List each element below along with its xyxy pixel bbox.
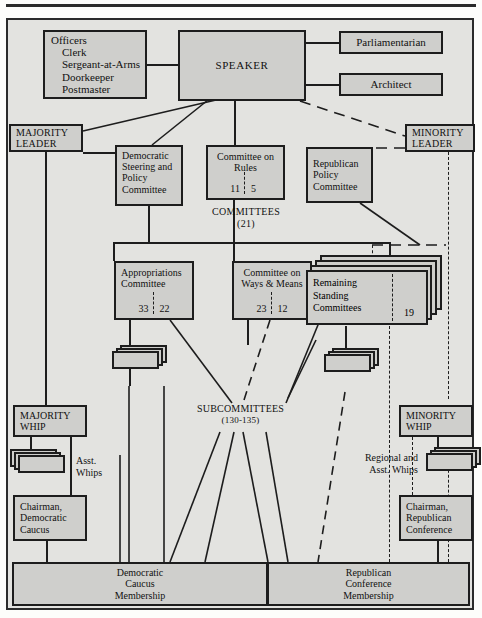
subcommittees-label-line2: (130-135) [178,415,303,425]
regional-whips-line1: Regional and [356,452,418,464]
minority-whip-box[interactable]: MINORITY WHIP [399,405,473,437]
majority-whip-line2: WHIP [20,421,85,432]
subcommittees-label: SUBCOMMITTEES (130-135) [178,403,303,425]
majority-whip-box[interactable]: MAJORITY WHIP [13,405,87,437]
majority-leader-box[interactable]: MAJORITY LEADER [9,124,83,152]
link-majleader-steering [83,152,115,154]
officers-item-doorkeeper: Doorkeeper [51,71,145,83]
officers-item-postmaster: Postmaster [51,83,145,95]
asst-whips-line1: Asst. [76,455,102,467]
minority-leader-line2: LEADER [412,138,473,149]
link-speaker-rules [234,100,236,145]
officers-heading: Officers [51,34,145,46]
chairman-rep-line2: Republican [406,512,471,523]
dem-steering-line1: Democratic [122,150,181,161]
committees-label: COMMITTEES (21) [206,206,286,229]
parliamentarian-label: Parliamentarian [356,36,426,48]
majority-leader-line1: MAJORITY [16,127,81,138]
dem-membership-line2: Caucus [125,578,154,589]
dem-membership-line3: Membership [115,590,166,601]
rep-policy-line3: Committee [313,181,371,192]
ways-means-box[interactable]: Committee on Ways & Means 23 12 [232,261,312,320]
remaining-line3: Committees [313,302,361,315]
rep-policy-line1: Republican [313,158,371,169]
rules-minority-seats: 5 [245,183,283,194]
appropriations-subcommittee-stack[interactable] [110,345,170,371]
chairman-rep-line1: Chairman, [406,501,471,512]
link-speaker-parliamentarian [306,42,339,44]
link-chairrep-membership [437,541,439,562]
speaker-box[interactable]: SPEAKER [178,30,306,101]
link-speaker-architect [306,84,339,86]
minority-whip-stack[interactable] [418,447,478,475]
organization-chart: Officers Clerk Sergeant-at-Arms Doorkeep… [0,0,482,618]
dem-steering-line3: Policy [122,172,181,183]
chairman-dem-line3: Caucus [20,524,85,535]
ways-means-minority-seats: 12 [272,303,311,314]
asst-whips-line2: Whips [76,467,102,479]
majority-whip-stack[interactable] [10,449,70,477]
committees-label-line2: (21) [206,218,286,230]
remaining-committees-box[interactable]: Remaining Standing Committees 19 [306,270,428,325]
speaker-label: SPEAKER [215,59,268,71]
remaining-line2: Standing [313,290,361,303]
link-chairdem-membership [46,541,48,562]
link-officers-speaker [146,64,178,66]
ways-means-line2: Ways & Means [234,278,310,289]
committees-label-line1: COMMITTEES [206,206,286,218]
republican-conference-membership-box[interactable]: Republican Conference Membership [267,562,470,606]
republican-policy-box[interactable]: Republican Policy Committee [306,147,373,203]
officers-item-sergeant: Sergeant-at-Arms [51,58,145,70]
link-majleader-majwhip [45,152,47,406]
rep-membership-line2: Conference [345,578,391,589]
regional-whips-label: Regional and Asst. Whips [356,452,418,475]
remaining-subcommittee-stack[interactable] [322,348,386,376]
asst-whips-label: Asst. Whips [76,455,102,478]
appropriations-box[interactable]: Appropriations Committee 33 22 [114,261,194,320]
officers-item-clerk: Clerk [51,46,145,58]
minority-whip-line2: WHIP [406,421,471,432]
democratic-steering-box[interactable]: Democratic Steering and Policy Committee [115,145,183,206]
regional-whips-line2: Asst. Whips [356,464,418,476]
link-remaining-subs [345,326,347,348]
remaining-line1: Remaining [313,277,361,290]
minority-leader-box[interactable]: MINORITY LEADER [405,124,475,152]
dashed-minleader-minwhip [448,152,449,399]
dem-steering-line4: Committee [122,184,181,195]
chairman-democratic-caucus-box[interactable]: Chairman, Democratic Caucus [13,495,87,541]
architect-box[interactable]: Architect [339,73,443,96]
architect-label: Architect [371,78,412,90]
chairman-rep-line3: Conference [406,524,471,535]
top-rule [6,4,476,7]
parliamentarian-box[interactable]: Parliamentarian [339,31,443,54]
link-majwhip-chairman [70,437,72,495]
appropriations-line1: Appropriations [121,267,192,278]
rules-committee-box[interactable]: Committee on Rules 11 5 [206,145,285,200]
majority-leader-line2: LEADER [16,138,81,149]
subcommittees-label-line1: SUBCOMMITTEES [178,403,303,415]
rep-membership-line3: Membership [343,590,394,601]
link-ways-subs [247,320,249,345]
appropriations-minority-seats: 22 [154,303,193,314]
dem-membership-line1: Democratic [117,567,164,578]
democratic-caucus-membership-box[interactable]: Democratic Caucus Membership [12,562,268,606]
chairman-republican-conference-box[interactable]: Chairman, Republican Conference [399,495,473,541]
dem-steering-line2: Steering and [122,161,181,172]
rep-policy-line2: Policy [313,169,371,180]
minority-whip-line1: MINORITY [406,410,471,421]
link-majwhip-stack [30,437,32,449]
rules-majority-seats: 11 [208,183,244,194]
officers-box[interactable]: Officers Clerk Sergeant-at-Arms Doorkeep… [43,30,147,99]
appropriations-line2: Committee [121,278,192,289]
remaining-count: 19 [404,307,414,318]
minority-leader-line1: MINORITY [412,127,473,138]
chairman-dem-line2: Democratic [20,512,85,523]
dashed-remaining-membership [389,326,390,562]
rules-line1: Committee on [208,151,283,162]
link-appropriations-subs [129,320,131,345]
remaining-committees-stack[interactable]: Remaining Standing Committees 19 [306,255,446,329]
link-steering-bus [148,206,150,242]
ways-means-majority-seats: 23 [234,303,271,314]
appropriations-majority-seats: 33 [116,303,153,314]
bus-drop-appropriations [113,242,115,261]
